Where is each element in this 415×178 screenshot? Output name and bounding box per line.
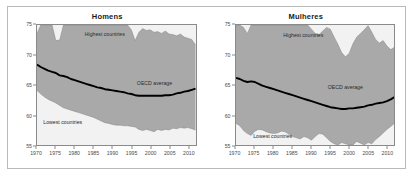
x-tick-label: 1995 — [126, 150, 138, 156]
x-tick-label: 1975 — [248, 150, 260, 156]
plot-area-homens: Highest countries OECD average Lowest co… — [36, 24, 197, 146]
y-tick-label: 60 — [26, 113, 32, 119]
x-tick-mark — [368, 146, 369, 149]
chart-panel-mulheres: Mulheres 7570656055 Highest countries OE… — [207, 7, 406, 168]
x-tick-mark — [272, 146, 273, 149]
y-axis-homens: 7570656055 — [8, 24, 36, 146]
y-tick-label: 60 — [225, 113, 231, 119]
figure-frame: Homens 7570656055 Highest countries OECD… — [7, 6, 406, 169]
x-tick-label: 1985 — [88, 150, 100, 156]
x-tick-mark — [55, 146, 56, 149]
x-tick-mark — [234, 146, 235, 149]
y-tick-label: 55 — [26, 143, 32, 149]
annotation-highest-mulheres: Highest countries — [283, 32, 323, 38]
x-tick-label: 2000 — [343, 150, 355, 156]
x-tick-mark — [36, 146, 37, 149]
x-tick-mark — [150, 146, 151, 149]
annotation-lowest-mulheres: Lowest countries — [253, 133, 292, 139]
x-tick-mark — [291, 146, 292, 149]
x-tick-label: 2010 — [382, 150, 394, 156]
x-tick-mark — [253, 146, 254, 149]
y-tick-label: 70 — [26, 52, 32, 58]
x-tick-label: 1980 — [68, 150, 80, 156]
x-axis-mulheres: 197019751980198519901995200020052010 — [235, 146, 396, 168]
y-tick-label: 65 — [225, 82, 231, 88]
y-tick-label: 65 — [26, 82, 32, 88]
x-tick-label: 2005 — [164, 150, 176, 156]
annotation-average-mulheres: OECD average — [328, 84, 363, 90]
panel-title-homens: Homens — [8, 12, 207, 21]
x-tick-mark — [93, 146, 94, 149]
annotation-lowest-homens: Lowest countries — [43, 119, 82, 125]
annotation-highest-homens: Highest countries — [85, 31, 125, 37]
plot-area-mulheres: Highest countries OECD average Lowest co… — [235, 24, 396, 146]
x-tick-label: 1970 — [30, 150, 42, 156]
x-tick-mark — [131, 146, 132, 149]
y-tick-label: 75 — [26, 21, 32, 27]
band-homens — [37, 25, 196, 132]
x-axis-homens: 197019751980198519901995200020052010 — [36, 146, 197, 168]
x-tick-mark — [188, 146, 189, 149]
y-axis-mulheres: 7570656055 — [207, 24, 235, 146]
x-tick-mark — [330, 146, 331, 149]
y-tick-label: 70 — [225, 52, 231, 58]
x-tick-mark — [169, 146, 170, 149]
x-tick-mark — [112, 146, 113, 149]
plot-box-mulheres — [235, 24, 396, 146]
chart-svg-mulheres — [236, 25, 395, 145]
x-tick-label: 1990 — [107, 150, 119, 156]
x-tick-mark — [310, 146, 311, 149]
annotation-average-homens: OECD average — [137, 80, 172, 86]
x-tick-label: 1985 — [286, 150, 298, 156]
y-tick-label: 75 — [225, 21, 231, 27]
x-tick-mark — [74, 146, 75, 149]
plot-box-homens — [36, 24, 197, 146]
x-tick-label: 1970 — [229, 150, 241, 156]
x-tick-label: 1995 — [324, 150, 336, 156]
x-tick-mark — [387, 146, 388, 149]
x-tick-mark — [349, 146, 350, 149]
x-tick-label: 2010 — [183, 150, 195, 156]
x-tick-label: 1980 — [267, 150, 279, 156]
x-tick-label: 1975 — [49, 150, 61, 156]
x-tick-label: 2005 — [362, 150, 374, 156]
panel-title-mulheres: Mulheres — [207, 12, 406, 21]
x-tick-label: 1990 — [305, 150, 317, 156]
x-tick-label: 2000 — [145, 150, 157, 156]
chart-panel-homens: Homens 7570656055 Highest countries OECD… — [8, 7, 207, 168]
y-tick-label: 55 — [225, 143, 231, 149]
